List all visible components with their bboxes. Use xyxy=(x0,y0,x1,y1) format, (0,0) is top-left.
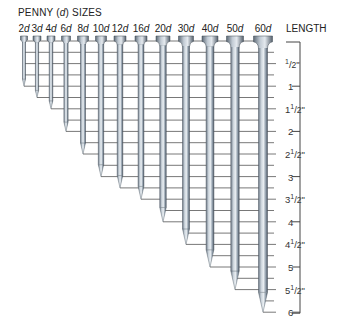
nail-2d xyxy=(21,36,28,86)
nail-16d xyxy=(135,36,147,199)
length-bracket xyxy=(286,42,300,313)
nails xyxy=(21,36,273,312)
nail-10d xyxy=(96,36,107,177)
nail-8d xyxy=(78,36,89,154)
nail-6d xyxy=(62,36,71,131)
nail-50d xyxy=(227,36,244,290)
nail-40d xyxy=(202,36,218,267)
nail-60d xyxy=(254,36,273,312)
nail-illustration xyxy=(0,0,341,332)
nail-3d xyxy=(33,36,41,98)
nail-30d xyxy=(179,36,194,244)
nail-size-diagram: PENNY (d) SIZES LENGTH 2d3d4d6d8d10d12d1… xyxy=(0,0,341,332)
bracket-line xyxy=(286,42,300,313)
